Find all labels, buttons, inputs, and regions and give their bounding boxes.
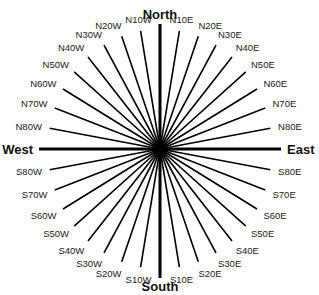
bearing-label: N40E (236, 42, 260, 53)
bearing-label: S70W (22, 189, 48, 200)
label-east: East (287, 142, 315, 157)
bearing-label: N60W (30, 78, 56, 89)
bearing-label: N70W (21, 98, 47, 109)
bearing-label: N50E (251, 59, 275, 70)
bearing-label: N10E (170, 14, 194, 25)
bearing-label: S70E (273, 189, 296, 200)
bearing-label: N60E (263, 78, 287, 89)
bearing-label: N30E (218, 29, 242, 40)
bearing-label: N40W (58, 42, 84, 53)
bearing-label: S50E (251, 228, 274, 239)
bearing-label: S10W (126, 274, 152, 285)
bearing-label: S50W (43, 228, 69, 239)
bearing-label: N70E (273, 98, 297, 109)
bearing-label: S40E (236, 245, 259, 256)
bearing-label: N10W (125, 14, 151, 25)
bearing-label: S60W (31, 210, 57, 221)
center-hub (153, 142, 167, 156)
bearing-label: S20W (96, 268, 122, 279)
bearing-label: S30W (76, 258, 102, 269)
bearing-label: N80W (15, 121, 41, 132)
bearing-label: S80W (16, 166, 42, 177)
bearing-label: N50W (43, 59, 69, 70)
compass-diagram: North East South West N10EN20EN30EN40EN5… (0, 0, 319, 295)
bearing-label: S10E (170, 274, 193, 285)
bearing-label: S80E (278, 166, 301, 177)
bearing-label: S60E (263, 210, 286, 221)
label-west: West (2, 142, 33, 157)
bearing-label: N80E (278, 121, 302, 132)
bearing-label: N20W (95, 20, 121, 31)
bearing-label: N30W (76, 29, 102, 40)
bearing-label: S20E (198, 268, 221, 279)
bearing-label: S40W (58, 245, 84, 256)
